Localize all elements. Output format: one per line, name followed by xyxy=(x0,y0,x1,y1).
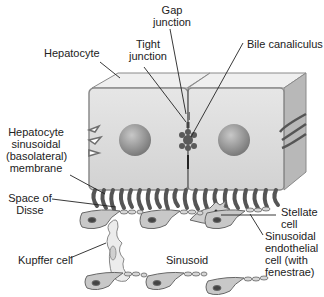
label-sinusoidal-endothelial-cell: Sinusoidal endothelial cell (with fenest… xyxy=(265,230,318,278)
nucleus-right xyxy=(218,124,250,156)
label-stellate-cell: Stellate cell xyxy=(281,206,318,230)
microvilli xyxy=(93,190,278,209)
label-bile-canaliculus: Bile canaliculus xyxy=(247,38,323,50)
endothelial-cells-top xyxy=(80,210,245,229)
hepatocyte-right xyxy=(188,73,306,190)
label-sinusoid: Sinusoid xyxy=(166,254,208,266)
label-gap-junction: Gap junction xyxy=(152,4,192,28)
label-basolateral-membrane: Hepatocyte sinusoidal (basolateral) memb… xyxy=(6,126,66,174)
endothelial-cells-bottom xyxy=(85,272,244,294)
gap-junction-mark xyxy=(187,112,190,120)
nucleus-left xyxy=(119,124,151,156)
label-space-of-disse: Space of Disse xyxy=(6,192,54,216)
fenestrae-bottom xyxy=(124,272,268,281)
label-tight-junction: Tight junction xyxy=(126,38,170,62)
label-hepatocyte: Hepatocyte xyxy=(44,47,100,59)
tight-junction-mark xyxy=(187,122,190,128)
lower-junction-mark xyxy=(187,155,189,169)
label-kupffer-cell: Kupffer cell xyxy=(18,254,73,266)
